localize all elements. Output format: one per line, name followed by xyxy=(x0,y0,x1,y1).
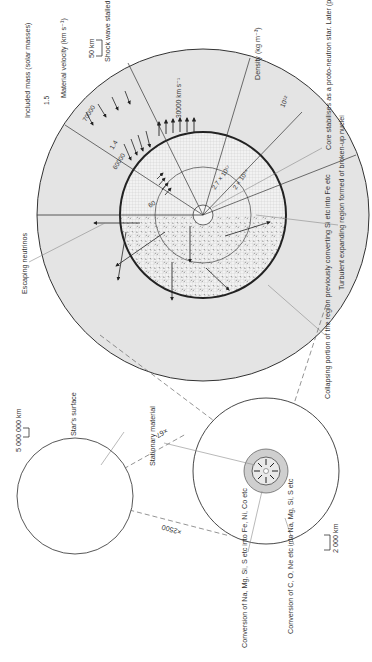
mass-header-text: Included mass (solar masses) xyxy=(23,23,32,118)
core-center xyxy=(264,469,269,474)
star-surface-label: Star's surface xyxy=(69,392,78,436)
protoneutron-label: Core stabilises as a proto-neutron star.… xyxy=(324,0,333,150)
scale-label-5000000km: 5 000 000 km xyxy=(14,408,23,452)
scale-bar-50km xyxy=(96,40,102,56)
density-header: Density (kg m⁻³) xyxy=(253,27,262,80)
na-mg-label: Conversion of Na, Mg, Si, S etc into Fe,… xyxy=(240,488,249,648)
stationary-label: Stationary material xyxy=(148,406,157,466)
magnification-2500: ×2500 xyxy=(161,523,183,537)
c-o-ne-label: Conversion of C, O, Ne etc into Na, Mg, … xyxy=(286,478,295,634)
mass-header: Included mass (solar masses) xyxy=(23,23,32,118)
core-panel: Stationary material Conversion of Na, Mg… xyxy=(148,398,340,648)
star-surface-circle xyxy=(17,438,133,554)
collapsing-label: Collapsing portion of the region previou… xyxy=(323,174,332,399)
neutrinos-label: Escaping neutrinos xyxy=(20,232,29,294)
density-header-text: Density (kg m⁻³) xyxy=(253,27,262,80)
shock-header: Shock wave stalled at about 150 km xyxy=(103,0,112,62)
supernova-core-collapse-diagram: 1.5 1.4 70000 60000 60 30000 km s⁻¹ 10¹²… xyxy=(0,0,372,662)
velocity-header-text: Material velocity (km s⁻¹) xyxy=(59,18,68,98)
shock-header-text: Shock wave stalled at about 150 km xyxy=(103,0,112,62)
scale-bar-2000km xyxy=(324,535,330,550)
scale-label-2000km: 2 000 km xyxy=(331,523,340,553)
star-panel: Star's surface 5 000 000 km xyxy=(14,392,133,554)
collapse-panel: 1.5 1.4 70000 60000 60 30000 km s⁻¹ 10¹²… xyxy=(20,0,369,399)
velocity-header: Material velocity (km s⁻¹) xyxy=(59,18,68,98)
turbulent-label: Turbulent expanding region formed of bro… xyxy=(337,115,346,290)
mass-outer-value: 1.5 xyxy=(43,96,50,105)
scale-bar-5000000km xyxy=(23,428,29,437)
scale-label-50km: 50 km xyxy=(87,38,96,58)
shock-speed-value: 30000 km s⁻¹ xyxy=(175,77,182,118)
